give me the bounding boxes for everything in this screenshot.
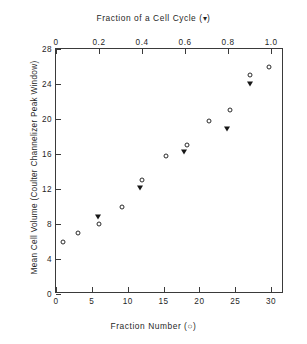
top-axis-tick-label: 0.4: [136, 38, 149, 47]
data-point-filled-triangle: [137, 186, 143, 191]
y-axis-tick: [56, 119, 61, 120]
bottom-axis-tick-label: 25: [230, 297, 240, 306]
data-point-open-circle: [247, 73, 252, 78]
data-point-open-circle: [119, 204, 124, 209]
y-axis-tick: [56, 224, 61, 225]
bottom-axis-tick-label: 5: [89, 297, 94, 306]
y-axis-tick-label: 28: [42, 45, 52, 54]
top-axis-title: Fraction of a Cell Cycle (▾): [0, 13, 307, 23]
y-axis-tick-label: 16: [42, 150, 52, 159]
y-axis-tick: [56, 259, 61, 260]
bottom-axis-tick: [56, 287, 57, 292]
data-point-filled-triangle: [95, 215, 101, 220]
top-axis-tick: [271, 49, 272, 54]
data-point-open-circle: [140, 178, 145, 183]
y-axis-tick-label: 8: [47, 220, 52, 229]
top-axis-tick-label: 0: [53, 38, 58, 47]
top-axis-tick-label: 0.8: [222, 38, 235, 47]
y-axis-tick: [56, 154, 61, 155]
data-point-filled-triangle: [224, 126, 230, 131]
figure-container: Fraction of a Cell Cycle (▾) Mean Cell V…: [0, 0, 307, 344]
data-point-open-circle: [163, 153, 168, 158]
y-axis-tick: [56, 49, 61, 50]
y-axis-tick-label: 12: [42, 185, 52, 194]
top-axis-tick: [99, 49, 100, 54]
top-axis-tick: [142, 49, 143, 54]
data-point-open-circle: [266, 64, 271, 69]
bottom-axis-tick-label: 15: [158, 297, 168, 306]
y-axis-tick-label: 20: [42, 115, 52, 124]
data-point-filled-triangle: [247, 82, 253, 87]
y-axis-tick: [56, 189, 61, 190]
y-axis-title: Mean Cell Volume (Coulter Channelizer Pe…: [30, 38, 39, 298]
y-axis-tick-label: 4: [47, 255, 52, 264]
data-point-open-circle: [227, 108, 232, 113]
y-axis-tick: [56, 294, 61, 295]
bottom-axis-tick: [235, 287, 236, 292]
y-axis-tick-label: 0: [47, 290, 52, 299]
y-axis-tick-label: 24: [42, 80, 52, 89]
data-point-open-circle: [61, 239, 66, 244]
plot-area: 00.20.40.60.81.0051015202530048121620242…: [55, 48, 283, 293]
bottom-axis-tick: [199, 287, 200, 292]
bottom-axis-tick-label: 20: [194, 297, 204, 306]
top-axis-tick: [228, 49, 229, 54]
data-point-open-circle: [206, 118, 211, 123]
data-point-open-circle: [185, 143, 190, 148]
top-axis-tick-label: 0.2: [93, 38, 106, 47]
data-point-open-circle: [97, 222, 102, 227]
data-point-open-circle: [75, 230, 80, 235]
top-axis-tick: [185, 49, 186, 54]
top-axis-tick-label: 0.6: [179, 38, 192, 47]
data-point-filled-triangle: [181, 150, 187, 155]
bottom-axis-tick: [92, 287, 93, 292]
bottom-axis-tick-label: 10: [123, 297, 133, 306]
bottom-axis-tick: [128, 287, 129, 292]
y-axis-tick: [56, 84, 61, 85]
bottom-axis-tick-label: 0: [53, 297, 58, 306]
bottom-axis-tick: [164, 287, 165, 292]
bottom-axis-tick-label: 30: [266, 297, 276, 306]
top-axis-tick-label: 1.0: [265, 38, 278, 47]
bottom-axis-title: Fraction Number (○): [0, 321, 307, 331]
bottom-axis-tick: [271, 287, 272, 292]
